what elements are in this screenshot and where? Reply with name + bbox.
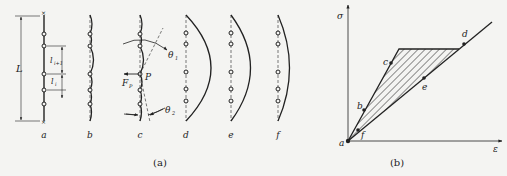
- column-d: d: [183, 15, 211, 140]
- label-l-upper-sub: i+1: [54, 60, 63, 66]
- label-L: L: [15, 63, 23, 74]
- column-label-a: a: [41, 130, 46, 140]
- column-label-d: d: [183, 130, 189, 140]
- caption-a: (a): [153, 157, 167, 168]
- column-label-e: e: [228, 130, 233, 140]
- column-label-f: f: [275, 130, 281, 140]
- point-e: [422, 76, 426, 80]
- label-l-lower: l: [51, 77, 54, 86]
- label-l-lower-sub: i: [55, 81, 57, 87]
- dimension-l-i-plus-1: l i+1: [47, 46, 66, 74]
- column-e: e: [228, 15, 250, 140]
- point-c: [389, 61, 393, 65]
- column-b: b: [87, 15, 93, 140]
- dimension-l-i: l i: [47, 75, 66, 98]
- column-c: θ 1 θ 2 F P P c: [121, 15, 178, 140]
- label-theta-1: θ: [168, 50, 174, 60]
- label-point-b: b: [357, 101, 363, 111]
- epsilon-label: ε: [493, 144, 498, 154]
- point-d: [462, 42, 466, 46]
- svg-text:×: ×: [41, 118, 46, 125]
- dimension-L: L: [15, 16, 40, 121]
- label-theta-2: θ: [165, 105, 171, 115]
- column-label-b: b: [87, 130, 93, 140]
- label-point-a: a: [339, 138, 344, 148]
- label-theta-2-sub: 2: [171, 110, 175, 116]
- point-f: [356, 128, 360, 132]
- label-point-d: d: [462, 29, 468, 39]
- label-theta-1-sub: 1: [175, 55, 178, 61]
- column-a: × × L l i+1 l i: [15, 9, 66, 140]
- svg-text:×: ×: [41, 9, 46, 16]
- sigma-label: σ: [337, 11, 344, 21]
- column-label-c: c: [137, 130, 142, 140]
- point-a: [346, 139, 350, 143]
- label-point-f: f: [360, 130, 366, 140]
- caption-b: (b): [390, 157, 404, 168]
- panel-a: × × L l i+1 l i: [15, 9, 290, 168]
- figure-canvas: × × L l i+1 l i: [0, 0, 507, 176]
- label-force-sub: P: [128, 83, 133, 89]
- label-point-c: c: [383, 57, 388, 67]
- panel-b: σ ε a b c d e f (b): [337, 5, 502, 168]
- label-point-e: e: [422, 82, 427, 92]
- column-f: f: [275, 15, 289, 140]
- label-point-P: P: [144, 72, 152, 82]
- label-force-F: F: [121, 78, 129, 88]
- label-l-upper: l: [50, 56, 53, 65]
